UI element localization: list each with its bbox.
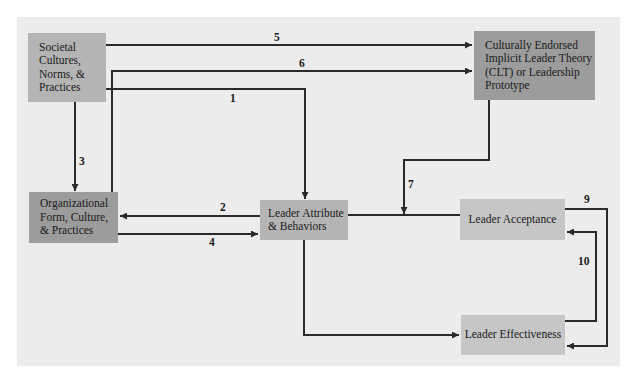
- node-leader-attribute: Leader Attribute & Behaviors: [260, 200, 348, 240]
- edge-label-9: 9: [584, 193, 590, 205]
- node-text: Societal: [39, 41, 85, 55]
- edge-label-1: 1: [230, 92, 236, 104]
- edge-label-10: 10: [578, 255, 590, 267]
- edge-7: [404, 100, 489, 214]
- edge-label-6: 6: [299, 57, 305, 69]
- node-text: Leader Attribute: [268, 207, 344, 221]
- node-leader-acceptance: Leader Acceptance: [460, 199, 565, 240]
- node-text: Norms, &: [39, 68, 85, 82]
- node-text: (CLT) or Leadership: [485, 66, 592, 80]
- edge-label-7: 7: [408, 178, 414, 190]
- node-text: Leader Effectiveness: [465, 328, 562, 342]
- node-clt-prototype: Culturally Endorsed Implicit Leader Theo…: [474, 31, 595, 100]
- node-leader-effectiveness: Leader Effectiveness: [461, 315, 565, 355]
- edge-attr-effectiveness: [304, 240, 459, 335]
- node-text: Organizational: [40, 197, 108, 211]
- node-text: Leader Acceptance: [469, 213, 557, 227]
- node-societal-cultures: Societal Cultures, Norms, & Practices: [28, 33, 106, 102]
- edge-9: [565, 209, 607, 346]
- node-text: Culturally Endorsed: [485, 39, 592, 53]
- edge-1: [106, 89, 305, 199]
- node-text: Prototype: [485, 79, 592, 93]
- node-text: & Behaviors: [268, 220, 344, 234]
- node-text: Cultures,: [39, 54, 85, 68]
- node-text: Implicit Leader Theory: [485, 52, 592, 66]
- node-text: Form, Culture,: [40, 211, 108, 225]
- edge-label-4: 4: [209, 236, 215, 248]
- edge-label-2: 2: [220, 201, 226, 213]
- edge-label-5: 5: [274, 31, 280, 43]
- node-text: & Practices: [40, 224, 108, 238]
- node-organizational-form: Organizational Form, Culture, & Practice…: [29, 192, 118, 243]
- edge-10: [565, 232, 596, 321]
- edge-label-3: 3: [79, 155, 85, 167]
- node-text: Practices: [39, 81, 85, 95]
